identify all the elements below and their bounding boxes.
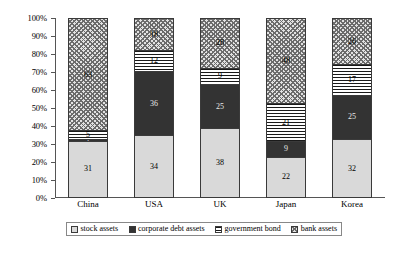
- y-tick-label: 0%: [36, 194, 47, 203]
- bar-segment[interactable]: 36: [135, 72, 173, 136]
- y-tick-mark: [51, 36, 55, 37]
- bar-stack: 3825928: [200, 18, 240, 198]
- bar-group-uk[interactable]: 3825928: [200, 18, 240, 198]
- bar-segment[interactable]: 21: [267, 104, 305, 141]
- legend-item[interactable]: government bond: [215, 225, 281, 233]
- legend-item[interactable]: stock assets: [71, 225, 118, 233]
- y-tick-mark: [51, 108, 55, 109]
- bar-segment[interactable]: 1: [69, 140, 107, 142]
- bar-stack: 34361218: [134, 18, 174, 198]
- legend-label: corporate debt assets: [138, 225, 205, 233]
- y-tick-mark: [51, 54, 55, 55]
- bar-segment-value: 9: [283, 145, 289, 153]
- bar-segment-value: 36: [149, 100, 159, 108]
- bar-segment-value: 9: [217, 72, 223, 80]
- y-axis: 0%10%20%30%40%50%60%70%80%90%100%: [0, 18, 52, 198]
- bars-layer: 311563343612183825928229214832251726: [55, 18, 385, 198]
- y-tick-mark: [51, 18, 55, 19]
- y-tick-mark: [51, 126, 55, 127]
- y-tick-label: 60%: [32, 86, 47, 95]
- bar-segment-value: 12: [149, 57, 159, 65]
- bar-segment[interactable]: 9: [267, 142, 305, 158]
- bar-segment-value: 25: [347, 113, 357, 121]
- x-tick-label-japan: Japan: [276, 200, 297, 209]
- y-tick-label: 40%: [32, 122, 47, 131]
- legend-swatch-icon: [71, 226, 78, 233]
- y-tick-mark: [51, 90, 55, 91]
- bar-segment[interactable]: 5: [69, 131, 107, 140]
- y-tick-label: 100%: [28, 14, 47, 23]
- y-tick-label: 50%: [32, 104, 47, 113]
- bar-segment[interactable]: 63: [69, 19, 107, 131]
- bar-segment-value: 63: [83, 71, 93, 79]
- bar-stack: 311563: [68, 18, 108, 198]
- legend-item[interactable]: bank assets: [291, 225, 337, 233]
- bar-segment-value: 17: [347, 76, 357, 84]
- bar-segment[interactable]: 12: [135, 51, 173, 72]
- bar-segment-value: 34: [149, 163, 159, 171]
- x-tick-label-china: China: [77, 200, 99, 209]
- bar-segment[interactable]: 25: [201, 85, 239, 130]
- bar-segment[interactable]: 48: [267, 19, 305, 104]
- bar-segment[interactable]: 9: [201, 69, 239, 85]
- x-tick-label-korea: Korea: [341, 200, 363, 209]
- y-tick-label: 10%: [32, 176, 47, 185]
- legend-label: stock assets: [81, 225, 119, 233]
- bar-segment-value: 26: [347, 38, 357, 46]
- bar-segment-value: 25: [215, 103, 225, 111]
- x-axis: ChinaUSAUKJapanKorea: [55, 200, 385, 216]
- y-tick-label: 70%: [32, 68, 47, 77]
- bar-segment-value: 48: [281, 57, 291, 65]
- y-tick-label: 80%: [32, 50, 47, 59]
- bar-segment-value: 28: [215, 39, 225, 47]
- legend-label: bank assets: [301, 225, 337, 233]
- bar-segment[interactable]: 32: [333, 140, 371, 197]
- bar-segment[interactable]: 22: [267, 158, 305, 197]
- bar-segment[interactable]: 17: [333, 65, 371, 95]
- legend-label: government bond: [225, 225, 281, 233]
- y-tick-label: 30%: [32, 140, 47, 149]
- bar-segment-value: 21: [281, 119, 291, 127]
- bar-stack: 32251726: [332, 18, 372, 198]
- bar-segment[interactable]: 25: [333, 96, 371, 141]
- bar-segment-value: 31: [83, 165, 93, 173]
- bar-segment-value: 32: [347, 165, 357, 173]
- y-tick-mark: [51, 180, 55, 181]
- legend-swatch-icon: [291, 226, 298, 233]
- y-tick-mark: [51, 198, 55, 199]
- legend-swatch-icon: [129, 226, 136, 233]
- y-tick-mark: [51, 162, 55, 163]
- bar-segment[interactable]: 26: [333, 19, 371, 65]
- bar-segment-value: 18: [149, 31, 159, 39]
- y-tick-label: 90%: [32, 32, 47, 41]
- bar-segment[interactable]: 18: [135, 19, 173, 51]
- bar-stack: 2292148: [266, 18, 306, 198]
- bar-group-usa[interactable]: 34361218: [134, 18, 174, 198]
- y-tick-mark: [51, 144, 55, 145]
- y-tick-mark: [51, 72, 55, 73]
- bar-segment[interactable]: 31: [69, 142, 107, 197]
- chart-legend: stock assetscorporate debt assetsgovernm…: [66, 222, 342, 236]
- x-tick-label-usa: USA: [145, 200, 163, 209]
- bar-segment-value: 22: [281, 173, 291, 181]
- bar-segment[interactable]: 38: [201, 129, 239, 197]
- legend-item[interactable]: corporate debt assets: [129, 225, 205, 233]
- bar-segment[interactable]: 34: [135, 136, 173, 197]
- y-tick-label: 20%: [32, 158, 47, 167]
- bar-group-korea[interactable]: 32251726: [332, 18, 372, 198]
- bar-group-japan[interactable]: 2292148: [266, 18, 306, 198]
- bar-group-china[interactable]: 311563: [68, 18, 108, 198]
- bar-segment-value: 38: [215, 159, 225, 167]
- bar-segment-value: 1: [85, 140, 91, 142]
- bar-segment-value: 5: [85, 131, 91, 139]
- stacked-bar-chart: 0%10%20%30%40%50%60%70%80%90%100% 311563…: [0, 0, 400, 253]
- legend-swatch-icon: [215, 226, 222, 233]
- bar-segment[interactable]: 28: [201, 19, 239, 69]
- x-tick-label-uk: UK: [214, 200, 227, 209]
